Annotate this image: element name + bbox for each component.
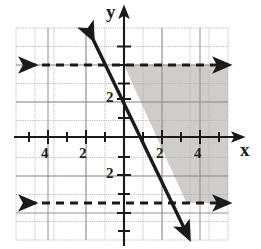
graph-figure: y x 4 2 2 4 2 2 [0,0,261,249]
y-axis-label: y [106,2,116,21]
y-tick-label-pos2: 2 [106,90,113,105]
x-tick-label-neg4: 4 [41,146,48,161]
x-tick-label-neg2: 2 [79,146,86,161]
x-axis-label: x [240,140,250,159]
coordinate-plane [0,0,261,249]
x-tick-label-pos4: 4 [194,146,201,161]
y-tick-label-neg2: 2 [106,166,113,181]
x-tick-label-pos2: 2 [156,146,163,161]
